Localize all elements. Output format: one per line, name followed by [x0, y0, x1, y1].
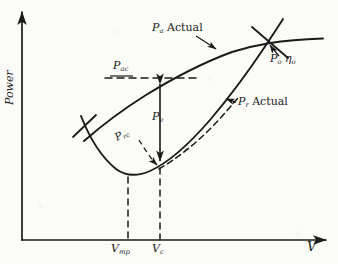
label-pr-actual-text: Pr Actual	[238, 95, 288, 108]
leader-prc	[139, 140, 157, 165]
label-pa-actual: Pa Actual	[152, 22, 203, 35]
label-pe-text: Pe	[152, 110, 163, 123]
label-pa-actual-text: Pa Actual	[152, 21, 203, 34]
power-vs-velocity-diagram	[0, 0, 338, 264]
x-axis-label: V	[307, 240, 316, 253]
y-axis-label: Power	[4, 70, 15, 105]
label-po-etao: Po ηo	[270, 53, 296, 66]
x-tick-label-vc-text: Vc	[152, 242, 164, 255]
leader-pa-actual	[196, 36, 216, 49]
label-pr-actual: Pr Actual	[238, 96, 288, 109]
label-po-etao-text: Po ηo	[270, 52, 296, 65]
label-pac-text: Pac	[113, 59, 128, 72]
x-tick-label-vmp-text: Vmp	[111, 242, 130, 255]
axis-group	[22, 12, 326, 240]
leader-pr-actual	[226, 99, 236, 102]
x-tick-label-vc: Vc	[152, 243, 164, 256]
label-pe: Pe	[152, 111, 163, 124]
label-pac: Pac	[113, 60, 128, 73]
x-tick-label-vmp: Vmp	[111, 243, 130, 256]
